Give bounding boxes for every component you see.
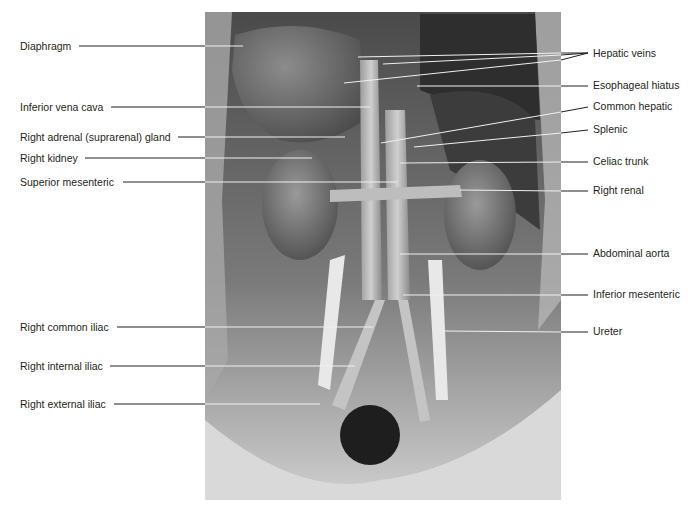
label-esophageal-hiatus: Esophageal hiatus bbox=[593, 79, 679, 91]
label-inferior-mesenteric: Inferior mesenteric bbox=[593, 288, 680, 300]
label-ureter: Ureter bbox=[593, 325, 622, 337]
label-right-kidney: Right kidney bbox=[20, 152, 78, 164]
label-superior-mesenteric: Superior mesenteric bbox=[20, 176, 114, 188]
label-right-external-iliac: Right external iliac bbox=[20, 398, 106, 410]
leader-lines-right bbox=[561, 53, 588, 332]
label-diaphragm: Diaphragm bbox=[20, 40, 71, 52]
label-right-adrenal-gland: Right adrenal (suprarenal) gland bbox=[20, 131, 171, 143]
label-splenic: Splenic bbox=[593, 123, 627, 135]
label-hepatic-veins: Hepatic veins bbox=[593, 47, 656, 59]
anatomy-figure: Diaphragm Inferior vena cava Right adren… bbox=[0, 0, 699, 514]
label-common-hepatic: Common hepatic bbox=[593, 100, 672, 112]
label-abdominal-aorta: Abdominal aorta bbox=[593, 247, 669, 259]
leader-lines-left bbox=[79, 46, 205, 404]
label-right-internal-iliac: Right internal iliac bbox=[20, 360, 103, 372]
label-right-common-iliac: Right common iliac bbox=[20, 321, 109, 333]
label-inferior-vena-cava: Inferior vena cava bbox=[20, 101, 103, 113]
label-right-renal: Right renal bbox=[593, 184, 644, 196]
label-celiac-trunk: Celiac trunk bbox=[593, 155, 648, 167]
